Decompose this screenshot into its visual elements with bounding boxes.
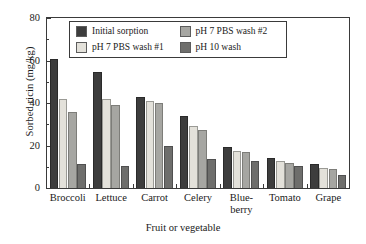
bar (121, 166, 130, 188)
bar-group (310, 17, 346, 188)
x-tick (89, 184, 90, 188)
x-tick-label: Celery (176, 192, 219, 204)
bar (310, 164, 319, 188)
x-tick-label: Tomato (263, 192, 306, 204)
bar (319, 168, 328, 188)
bar (59, 99, 68, 188)
bar (294, 166, 303, 188)
y-axis-title: Sorbed ricin (mg/kg) (24, 7, 35, 177)
bar (276, 161, 285, 188)
legend-swatch-initial-sorption (76, 26, 87, 37)
legend-swatch-ph10-wash (180, 42, 191, 53)
legend-label-ph10-wash: pH 10 wash (196, 43, 241, 53)
y-tick-minor (46, 124, 49, 125)
bar (267, 158, 276, 188)
bar (285, 163, 294, 189)
y-tick-label: 60 (2, 56, 40, 67)
x-tick (46, 184, 47, 188)
legend-swatch-ph7-wash1 (76, 42, 87, 53)
y-tick-label: 80 (2, 13, 40, 24)
bar (207, 159, 216, 188)
x-tick (176, 184, 177, 188)
y-tick-minor (46, 82, 49, 83)
bar (68, 112, 77, 189)
bar (338, 175, 347, 188)
x-axis-title: Fruit or vegetable (0, 222, 366, 233)
x-tick-label: Carrot (133, 192, 176, 204)
bar (50, 59, 59, 188)
bar (77, 164, 86, 188)
bar (164, 146, 173, 189)
x-tick (263, 184, 264, 188)
x-tick-label: Broccoli (46, 192, 89, 204)
bar (329, 169, 338, 188)
x-tick-label: Lettuce (89, 192, 132, 204)
x-tick-label: Blue- berry (220, 192, 263, 215)
chart-figure: Sorbed ricin (mg/kg) 020406080 BroccoliL… (0, 0, 366, 244)
chart-legend: Initial sorption pH 7 PBS wash #2 pH 7 P… (69, 21, 287, 58)
legend-label-initial-sorption: Initial sorption (92, 27, 148, 37)
bar (223, 147, 232, 188)
legend-entry-1: pH 7 PBS wash #1 (76, 42, 178, 53)
bar (155, 103, 164, 188)
y-tick-minor (46, 167, 49, 168)
legend-entry-3: pH 10 wash (180, 42, 282, 53)
bar (233, 151, 242, 188)
legend-entry-0: Initial sorption (76, 26, 178, 37)
bar (102, 99, 111, 188)
bar (180, 116, 189, 188)
bar (198, 130, 207, 188)
x-tick (220, 184, 221, 188)
bar (146, 101, 155, 188)
y-tick-label: 20 (2, 141, 40, 152)
bar (242, 152, 251, 188)
x-tick (133, 184, 134, 188)
y-tick-major (46, 188, 51, 189)
legend-label-ph7-wash1: pH 7 PBS wash #1 (92, 43, 164, 53)
legend-label-ph7-wash2: pH 7 PBS wash #2 (196, 27, 268, 37)
bar (93, 72, 102, 188)
legend-swatch-ph7-wash2 (180, 26, 191, 37)
bar (251, 161, 260, 188)
y-tick-label: 40 (2, 98, 40, 109)
x-tick (307, 184, 308, 188)
bar (136, 97, 145, 188)
bar (189, 126, 198, 188)
y-tick-label: 0 (2, 183, 40, 194)
bar (111, 105, 120, 188)
x-tick-label: Grape (307, 192, 350, 204)
y-tick-minor (46, 39, 49, 40)
legend-entry-2: pH 7 PBS wash #2 (180, 26, 282, 37)
